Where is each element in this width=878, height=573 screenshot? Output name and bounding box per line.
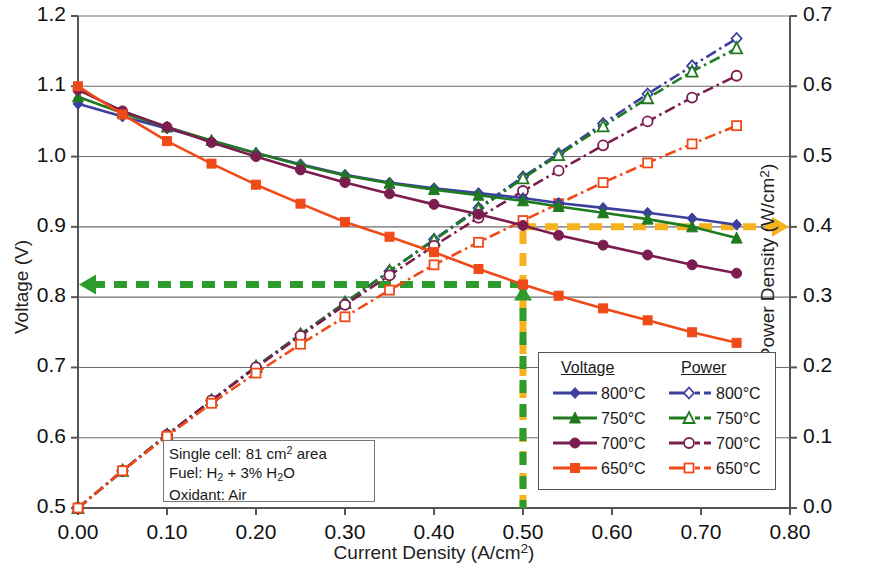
- data-point-marker: [207, 399, 216, 408]
- legend-voltage-label-3: 650°C: [601, 460, 646, 478]
- series-line: [78, 86, 737, 343]
- data-point-marker: [207, 138, 217, 148]
- data-point-marker: [430, 260, 439, 269]
- data-point-marker: [554, 230, 564, 240]
- data-point-marker: [687, 260, 697, 270]
- data-point-marker: [252, 369, 261, 378]
- data-point-marker: [385, 189, 395, 199]
- annotation-line-3: Oxidant: Air: [169, 485, 369, 504]
- x-tick-label: 0.00: [58, 520, 99, 544]
- data-point-marker: [385, 270, 395, 280]
- y-tick-label-left: 1.1: [0, 72, 66, 96]
- legend-power-label-1: 750°C: [716, 410, 761, 428]
- annotation-line-2: Fuel: H2 + 3% H2O: [169, 463, 369, 485]
- data-point-marker: [207, 159, 216, 168]
- data-point-marker: [684, 438, 694, 448]
- data-point-marker: [643, 116, 653, 126]
- data-point-marker: [554, 291, 563, 300]
- data-point-marker: [518, 220, 528, 230]
- data-point-marker: [519, 280, 528, 289]
- data-point-marker: [599, 304, 608, 313]
- data-point-marker: [296, 165, 306, 175]
- data-point-marker: [162, 122, 172, 132]
- data-point-marker: [296, 340, 305, 349]
- y-tick-label-right: 0.6: [803, 72, 832, 96]
- data-point-marker: [643, 316, 652, 325]
- x-tick-label: 0.40: [414, 520, 455, 544]
- y-tick-label-left: 1.0: [0, 143, 66, 167]
- data-point-marker: [340, 178, 350, 188]
- series-voltage-650C: [74, 82, 742, 348]
- data-point-marker: [296, 199, 305, 208]
- data-point-marker: [570, 438, 580, 448]
- data-point-marker: [341, 312, 350, 321]
- data-point-marker: [340, 300, 350, 310]
- data-point-marker: [732, 71, 742, 81]
- data-point-marker: [598, 140, 608, 150]
- data-point-marker: [571, 464, 580, 473]
- y-axis-right-label: Power Density (W/cm2): [757, 147, 780, 377]
- conditions-annotation-box: Single cell: 81 cm2 area Fuel: H2 + 3% H…: [163, 440, 375, 502]
- data-point-marker: [732, 121, 741, 130]
- data-point-marker: [474, 238, 483, 247]
- data-point-marker: [688, 328, 697, 337]
- series-line: [78, 104, 737, 225]
- data-point-marker: [385, 232, 394, 241]
- data-point-marker: [252, 180, 261, 189]
- data-point-marker: [429, 199, 439, 209]
- x-tick-label: 0.10: [147, 520, 188, 544]
- legend-power-label-0: 800°C: [716, 385, 761, 403]
- y-tick-label-left: 1.2: [0, 2, 66, 26]
- chart-legend: Voltage Power 800°C 750°C 700°C 650°C 80…: [538, 352, 776, 490]
- x-tick-label: 0.30: [325, 520, 366, 544]
- x-axis-label: Current Density (A/cm2): [334, 541, 535, 564]
- y-tick-label-right: 0.0: [803, 494, 832, 518]
- x-tick-label: 0.80: [770, 520, 811, 544]
- series-voltage-700C: [73, 85, 742, 278]
- data-point-marker: [731, 42, 742, 53]
- series-line: [78, 90, 737, 273]
- legend-voltage-label-0: 800°C: [601, 385, 646, 403]
- x-tick-label: 0.60: [592, 520, 633, 544]
- polarization-power-chart: Voltage (V) Power Density (W/cm2) Curren…: [0, 0, 878, 573]
- data-point-marker: [554, 166, 564, 176]
- y-tick-label-right: 0.2: [803, 353, 832, 377]
- x-tick-label: 0.20: [236, 520, 277, 544]
- data-point-marker: [118, 466, 127, 475]
- y-tick-label-right: 0.7: [803, 2, 832, 26]
- data-point-marker: [251, 152, 261, 162]
- x-tick-label: 0.50: [503, 520, 544, 544]
- y-tick-label-right: 0.1: [803, 424, 832, 448]
- y-tick-label-left: 0.9: [0, 213, 66, 237]
- y-tick-label-right: 0.5: [803, 143, 832, 167]
- y-tick-label-left: 0.5: [0, 494, 66, 518]
- data-point-marker: [688, 139, 697, 148]
- y-tick-label-left: 0.7: [0, 353, 66, 377]
- data-point-marker: [474, 265, 483, 274]
- y-tick-label-left: 0.8: [0, 283, 66, 307]
- data-point-marker: [732, 268, 742, 278]
- data-point-marker: [385, 286, 394, 295]
- data-point-marker: [74, 82, 83, 91]
- data-point-marker: [599, 178, 608, 187]
- data-point-marker: [118, 110, 127, 119]
- annotation-line-1: Single cell: 81 cm2 area: [169, 444, 369, 463]
- y-tick-label-right: 0.3: [803, 283, 832, 307]
- data-point-marker: [732, 338, 741, 347]
- data-point-marker: [474, 209, 484, 219]
- legend-power-label-3: 650°C: [716, 460, 761, 478]
- data-point-marker: [684, 388, 694, 399]
- x-tick-label: 0.70: [681, 520, 722, 544]
- data-point-marker: [685, 464, 694, 473]
- data-point-marker: [430, 248, 439, 257]
- legend-voltage-label-1: 750°C: [601, 410, 646, 428]
- legend-voltage-label-2: 700°C: [601, 435, 646, 453]
- data-point-marker: [341, 217, 350, 226]
- series-line: [78, 97, 737, 238]
- data-point-marker: [570, 388, 580, 399]
- legend-power-label-2: 700°C: [716, 435, 761, 453]
- y-tick-label-right: 0.4: [803, 213, 832, 237]
- y-tick-label-left: 0.6: [0, 424, 66, 448]
- data-point-marker: [598, 240, 608, 250]
- data-point-marker: [163, 137, 172, 146]
